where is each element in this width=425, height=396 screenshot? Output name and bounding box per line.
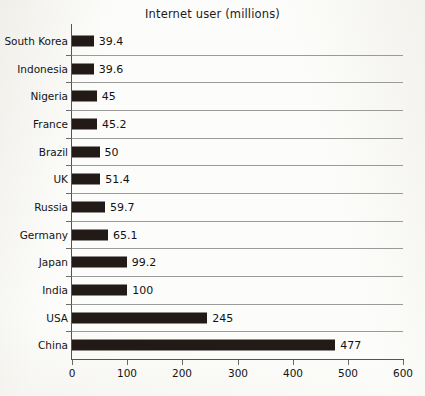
y-axis-line [71, 24, 72, 360]
category-label: Nigeria [30, 90, 68, 102]
y-axis-tick [66, 221, 72, 222]
x-axis-tick-label: 100 [117, 367, 137, 379]
bar-chart: Internet user (millions) South KoreaIndo… [0, 0, 425, 396]
gridline [72, 138, 403, 139]
bar-value-label: 477 [340, 339, 361, 352]
y-axis-tick [66, 55, 72, 56]
y-axis-tick [66, 193, 72, 194]
x-axis-tick-label: 600 [393, 367, 413, 379]
gridline [72, 165, 403, 166]
bar [72, 174, 100, 185]
y-axis-tick [66, 331, 72, 332]
bar [72, 229, 108, 240]
bar-value-label: 245 [212, 311, 233, 324]
paper-texture-overlay [0, 0, 425, 396]
category-label: India [42, 284, 68, 296]
bar [72, 340, 335, 351]
category-label: UK [53, 173, 68, 185]
y-axis-tick [66, 248, 72, 249]
chart-title: Internet user (millions) [0, 7, 425, 21]
y-axis-tick [66, 304, 72, 305]
bar-value-label: 100 [132, 283, 153, 296]
bar [72, 118, 97, 129]
gridline [72, 304, 403, 305]
category-label: South Korea [4, 35, 68, 47]
bar-value-label: 50 [105, 145, 119, 158]
y-axis-tick [66, 276, 72, 277]
category-label: France [33, 118, 68, 130]
x-axis-tick [293, 360, 294, 365]
x-axis-tick [238, 360, 239, 365]
gridline [72, 193, 403, 194]
category-label: Germany [20, 229, 68, 241]
x-axis-tick-label: 300 [228, 367, 248, 379]
bar [72, 201, 105, 212]
y-axis-tick [66, 110, 72, 111]
bar-value-label: 39.4 [99, 34, 124, 47]
bar-value-label: 45 [102, 90, 116, 103]
gridline [72, 276, 403, 277]
gridline [72, 82, 403, 83]
x-axis-tick [127, 360, 128, 365]
bar-value-label: 51.4 [105, 173, 130, 186]
bar [72, 312, 207, 323]
y-axis-tick [66, 138, 72, 139]
bar [72, 257, 127, 268]
x-axis-tick-label: 0 [69, 367, 76, 379]
category-label: Russia [34, 201, 68, 213]
bar [72, 35, 94, 46]
x-axis-tick-label: 200 [172, 367, 192, 379]
x-axis-tick [182, 360, 183, 365]
gridline [72, 55, 403, 56]
x-axis-tick [403, 360, 404, 365]
y-axis-tick [66, 82, 72, 83]
bar [72, 91, 97, 102]
x-axis-tick-label: 400 [283, 367, 303, 379]
category-label: Indonesia [17, 63, 68, 75]
y-axis-tick [66, 165, 72, 166]
gridline [72, 221, 403, 222]
category-label: USA [46, 312, 68, 324]
bar-value-label: 65.1 [113, 228, 138, 241]
category-label: China [38, 339, 68, 351]
bar-value-label: 39.6 [99, 62, 124, 75]
bar [72, 146, 100, 157]
category-label: Japan [39, 256, 68, 268]
category-label: Brazil [39, 146, 68, 158]
bar-value-label: 59.7 [110, 200, 135, 213]
bar-value-label: 45.2 [102, 117, 127, 130]
x-axis-tick [348, 360, 349, 365]
x-axis-tick [72, 360, 73, 365]
bar [72, 284, 127, 295]
bar [72, 63, 94, 74]
bar-value-label: 99.2 [132, 256, 157, 269]
x-axis-tick-label: 500 [338, 367, 358, 379]
gridline [72, 248, 403, 249]
gridline [72, 331, 403, 332]
gridline [72, 110, 403, 111]
